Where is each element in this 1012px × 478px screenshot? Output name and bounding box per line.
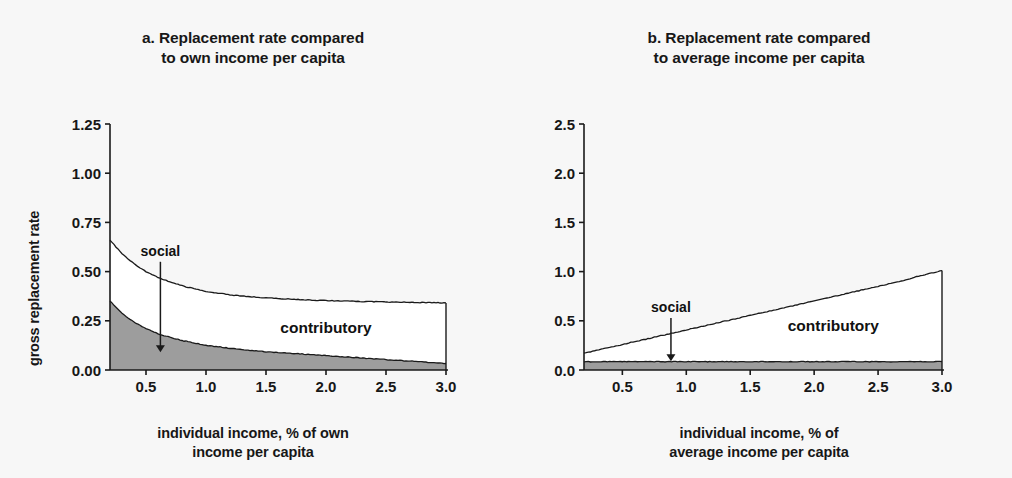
x-tick-label: 2.5	[868, 378, 889, 395]
y-tick-label: 2.5	[554, 116, 575, 133]
social-area-fill	[584, 361, 942, 370]
panel-a-x-axis-label-line2: income per capita	[0, 443, 506, 462]
y-tick-label: 0.00	[72, 362, 101, 379]
social-boundary-line	[584, 361, 942, 362]
x-tick-label: 3.0	[436, 378, 457, 395]
y-tick-label: 1.25	[72, 116, 101, 133]
x-tick-label: 1.5	[740, 378, 761, 395]
y-tick-label: 0.25	[72, 312, 101, 329]
x-tick-label: 2.5	[376, 378, 397, 395]
social-annotation-label: social	[141, 243, 181, 259]
contributory-annotation-label: contributory	[280, 319, 372, 336]
panel-b-x-axis-label: individual income, % of average income p…	[506, 424, 1012, 462]
figure-container: a. Replacement rate compared to own inco…	[0, 0, 1012, 478]
x-tick-label: 1.5	[256, 378, 277, 395]
chart-panel-b: b. Replacement rate compared to average …	[506, 0, 1012, 478]
x-tick-label: 0.5	[136, 378, 157, 395]
y-tick-label: 0.0	[554, 362, 575, 379]
chart-panel-a: a. Replacement rate compared to own inco…	[0, 0, 506, 478]
y-tick-label: 0.75	[72, 214, 101, 231]
panel-b-plot: 0.00.51.01.52.02.50.51.01.52.02.53.0soci…	[506, 0, 1012, 478]
x-tick-label: 3.0	[932, 378, 953, 395]
y-tick-label: 1.0	[554, 263, 575, 280]
y-tick-label: 1.5	[554, 214, 575, 231]
y-tick-label: 0.50	[72, 263, 101, 280]
panel-a-plot: 0.000.250.500.751.001.250.51.01.52.02.53…	[0, 0, 506, 478]
panel-b-x-axis-label-line1: individual income, % of	[506, 424, 1012, 443]
contributory-annotation-label: contributory	[788, 317, 880, 334]
x-tick-label: 1.0	[676, 378, 697, 395]
panel-a-x-axis-label: individual income, % of own income per c…	[0, 424, 506, 462]
panel-b-x-axis-label-line2: average income per capita	[506, 443, 1012, 462]
x-tick-label: 2.0	[804, 378, 825, 395]
x-tick-label: 0.5	[612, 378, 633, 395]
social-annotation-label: social	[651, 299, 691, 315]
x-tick-label: 2.0	[316, 378, 337, 395]
y-tick-label: 2.0	[554, 165, 575, 182]
y-tick-label: 1.00	[72, 165, 101, 182]
y-tick-label: 0.5	[554, 312, 575, 329]
x-tick-label: 1.0	[196, 378, 217, 395]
panel-a-x-axis-label-line1: individual income, % of own	[0, 424, 506, 443]
